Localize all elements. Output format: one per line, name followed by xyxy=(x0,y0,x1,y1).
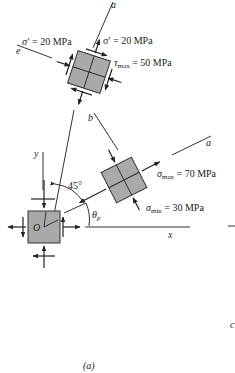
axis-b-line xyxy=(94,113,118,150)
original-stress-element xyxy=(8,180,80,268)
theta-p-arc xyxy=(86,203,89,226)
figure-caption: (a) xyxy=(83,360,95,372)
label-sigma-min: σmin = 30 MPa xyxy=(146,202,204,215)
label-sigma-max: σmax = 70 MPa xyxy=(157,168,217,181)
label-tau-max: τmax = 50 MPa xyxy=(114,57,172,70)
label-theta-p: θp xyxy=(92,209,101,222)
line-to-origin xyxy=(52,110,74,225)
label-x-axis: x xyxy=(167,229,173,240)
label-origin-o: O xyxy=(33,222,40,233)
label-sigma-prime-right: σ′ = 20 MPa xyxy=(103,35,153,46)
label-axis-a-top: a xyxy=(111,0,116,10)
label-axis-c: c xyxy=(230,319,235,330)
label-45deg: 45° xyxy=(68,180,82,191)
stress-transformation-diagram: a e σ′ = 20 MPa σ′ = 20 MPa τmax = 50 MP… xyxy=(0,0,235,373)
label-axis-a-right: a xyxy=(206,137,211,148)
label-axis-e: e xyxy=(16,45,21,56)
label-axis-b: b xyxy=(88,112,93,123)
theta-p-line xyxy=(64,203,86,213)
label-y-axis: y xyxy=(33,148,39,159)
label-sigma-prime-left: σ′ = 20 MPa xyxy=(22,36,72,47)
